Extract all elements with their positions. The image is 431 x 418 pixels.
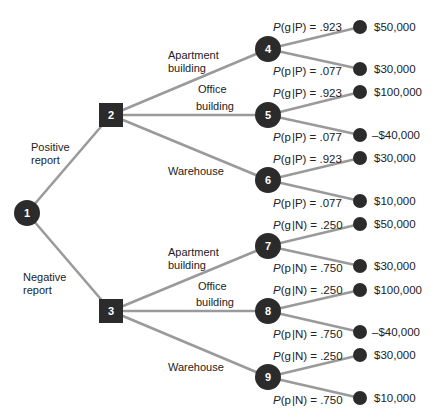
alt-label-apartment-3: Apartment bbox=[168, 246, 219, 258]
svg-text:P(p|N) = .750: P(p|N) = .750 bbox=[273, 262, 343, 274]
branch-negative-report bbox=[27, 213, 111, 311]
svg-text:$50,000: $50,000 bbox=[374, 218, 416, 230]
alt-label-warehouse-3: Warehouse bbox=[168, 361, 224, 373]
svg-text:6: 6 bbox=[265, 174, 271, 186]
svg-text:P(g|N) = .250: P(g|N) = .250 bbox=[273, 219, 343, 231]
svg-text:report: report bbox=[23, 284, 52, 296]
chance-node-8: 8 bbox=[255, 298, 281, 324]
svg-text:building: building bbox=[196, 100, 234, 112]
negative-report-label: Negative bbox=[23, 271, 66, 283]
svg-text:5: 5 bbox=[265, 109, 271, 121]
svg-text:P(g|P) = .923: P(g|P) = .923 bbox=[273, 21, 342, 33]
svg-text:building: building bbox=[168, 62, 206, 74]
svg-text:P(p|P) = .077: P(p|P) = .077 bbox=[273, 131, 342, 143]
svg-text:$10,000: $10,000 bbox=[374, 195, 416, 207]
svg-text:–$40,000: –$40,000 bbox=[372, 129, 420, 141]
svg-text:$10,000: $10,000 bbox=[374, 392, 416, 404]
svg-text:7: 7 bbox=[265, 240, 271, 252]
terminal-nodes bbox=[353, 20, 367, 405]
svg-text:1: 1 bbox=[24, 207, 30, 219]
svg-text:building: building bbox=[196, 296, 234, 308]
svg-text:$100,000: $100,000 bbox=[374, 86, 422, 98]
svg-text:report: report bbox=[31, 154, 60, 166]
positive-report-label: Positive bbox=[31, 141, 70, 153]
svg-text:$50,000: $50,000 bbox=[374, 21, 416, 33]
chance-node-5: 5 bbox=[255, 102, 281, 128]
chance-node-6: 6 bbox=[255, 167, 281, 193]
svg-text:P(p|P) = .077: P(p|P) = .077 bbox=[273, 65, 342, 77]
svg-text:P(p|N) = .750: P(p|N) = .750 bbox=[273, 394, 343, 406]
probability-labels: P(g|P) = .923 P(p|P) = .077 P(g|P) = .92… bbox=[273, 21, 343, 406]
decision-tree: 1 Positive report Negative report 2 3 Ap… bbox=[0, 0, 431, 418]
alt-label-office-2: Office bbox=[198, 83, 227, 95]
decision-node-2: 2 bbox=[99, 103, 123, 127]
svg-text:$30,000: $30,000 bbox=[374, 260, 416, 272]
svg-text:P(g|N) = .250: P(g|N) = .250 bbox=[273, 284, 343, 296]
svg-text:$30,000: $30,000 bbox=[374, 349, 416, 361]
svg-text:P(g|P) = .923: P(g|P) = .923 bbox=[273, 153, 342, 165]
svg-text:P(g|P) = .923: P(g|P) = .923 bbox=[273, 87, 342, 99]
chance-node-1: 1 bbox=[14, 200, 40, 226]
svg-text:$30,000: $30,000 bbox=[374, 152, 416, 164]
svg-text:P(g|N) = .250: P(g|N) = .250 bbox=[273, 350, 343, 362]
svg-text:–$40,000: –$40,000 bbox=[372, 326, 420, 338]
svg-text:2: 2 bbox=[108, 109, 114, 121]
alt-label-office-3: Office bbox=[198, 280, 227, 292]
svg-text:9: 9 bbox=[265, 371, 271, 383]
chance-node-4: 4 bbox=[255, 36, 281, 62]
svg-text:8: 8 bbox=[265, 305, 271, 317]
alt-label-warehouse-2: Warehouse bbox=[168, 165, 224, 177]
decision-node-3: 3 bbox=[99, 299, 123, 323]
alt-label-apartment-2: Apartment bbox=[168, 49, 219, 61]
chance-node-9: 9 bbox=[255, 364, 281, 390]
svg-text:P(p|P) = .077: P(p|P) = .077 bbox=[273, 197, 342, 209]
svg-text:$100,000: $100,000 bbox=[374, 284, 422, 296]
svg-text:$30,000: $30,000 bbox=[374, 63, 416, 75]
svg-text:4: 4 bbox=[265, 43, 272, 55]
payoff-labels: $50,000 $30,000 $100,000 –$40,000 $30,00… bbox=[372, 21, 422, 404]
svg-text:3: 3 bbox=[108, 305, 114, 317]
svg-text:P(p|N) = .750: P(p|N) = .750 bbox=[273, 328, 343, 340]
svg-text:building: building bbox=[168, 259, 206, 271]
chance-node-7: 7 bbox=[255, 233, 281, 259]
